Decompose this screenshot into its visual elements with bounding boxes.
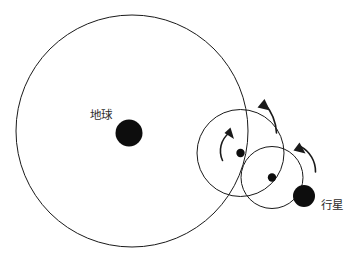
epicycle-primary-arrow-head-icon — [225, 128, 235, 140]
epicycle-secondary-center-dot — [268, 173, 276, 181]
planet-body — [293, 185, 315, 207]
epicycle-primary-center-dot — [236, 149, 244, 157]
deferent-arrow-head-icon — [258, 99, 271, 111]
deferent-motion-arrow — [258, 99, 277, 133]
epicycle-diagram: 地球 行星 — [0, 0, 355, 258]
earth-body — [116, 120, 143, 147]
earth-label: 地球 — [90, 108, 113, 122]
epicycle-secondary-motion-arrow — [294, 143, 316, 173]
diagram-canvas: 地球 行星 — [0, 0, 355, 258]
epicycle-primary-motion-arc — [220, 133, 229, 161]
planet-label: 行星 — [321, 198, 343, 212]
epicycle-primary-motion-arrow — [220, 128, 234, 161]
